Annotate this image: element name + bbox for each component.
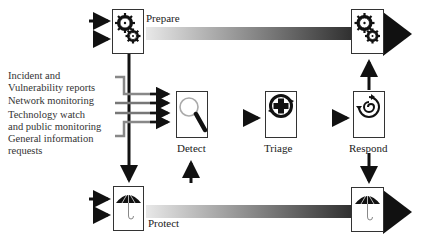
input-general-requests-line2: requests: [8, 145, 42, 157]
prepare-label: Prepare: [146, 12, 180, 24]
protect-label: Protect: [148, 217, 179, 229]
umbrella-icon: [114, 187, 143, 230]
respond-label: Respond: [349, 142, 388, 154]
protect-box: [113, 186, 144, 231]
input-technology-watch-line2: and public monitoring: [8, 121, 101, 133]
detect-label: Detect: [177, 142, 206, 154]
prepare-box: [112, 9, 144, 54]
protect-end-box: [351, 187, 384, 232]
respond-box: [353, 91, 385, 138]
input-technology-watch-line1: Technology watch: [8, 109, 85, 121]
triage-label: Triage: [264, 142, 292, 154]
input-incident-reports-line2: Vulnerability reports: [8, 82, 95, 94]
cycle-arrows-icon: [354, 92, 384, 137]
triage-box: [265, 91, 297, 138]
input-network-monitoring: Network monitoring: [8, 95, 94, 107]
magnifier-icon: [177, 92, 207, 137]
gears-icon: [352, 10, 383, 53]
prepare-end-box: [351, 9, 384, 54]
input-incident-reports-line1: Incident and: [8, 70, 60, 82]
medical-cross-icon: [266, 92, 296, 137]
gears-icon: [113, 10, 143, 53]
input-general-requests-line1: General information: [8, 133, 93, 145]
umbrella-icon: [352, 188, 383, 231]
detect-box: [176, 91, 208, 138]
